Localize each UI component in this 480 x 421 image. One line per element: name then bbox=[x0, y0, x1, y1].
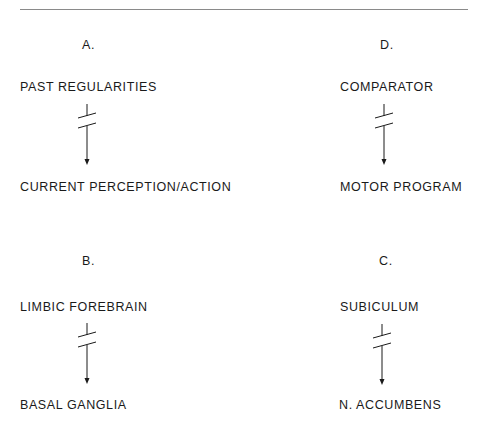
interrupted-arrow-icon bbox=[372, 324, 392, 386]
target-node: MOTOR PROGRAM bbox=[340, 181, 462, 194]
target-node: BASAL GANGLIA bbox=[20, 399, 127, 412]
panel-letter: D. bbox=[380, 39, 394, 52]
target-node: CURRENT PERCEPTION/ACTION bbox=[20, 181, 231, 194]
source-node: COMPARATOR bbox=[340, 81, 434, 94]
panel-letter: A. bbox=[82, 39, 95, 52]
interrupted-arrow-icon bbox=[77, 104, 97, 166]
top-rule bbox=[20, 9, 468, 10]
panel-letter: B. bbox=[82, 255, 95, 268]
target-node: N. ACCUMBENS bbox=[339, 399, 441, 412]
source-node: SUBICULUM bbox=[340, 301, 419, 314]
source-node: PAST REGULARITIES bbox=[20, 81, 157, 94]
source-node: LIMBIC FOREBRAIN bbox=[20, 301, 148, 314]
interrupted-arrow-icon bbox=[374, 104, 394, 166]
panel-letter: C. bbox=[379, 255, 393, 268]
interrupted-arrow-icon bbox=[77, 323, 97, 385]
